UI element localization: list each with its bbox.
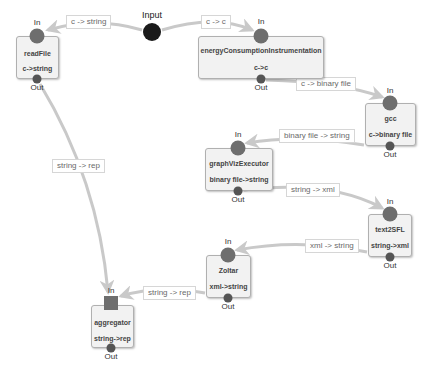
edge-label: xml -> string [305,239,359,253]
in-port-icon[interactable] [30,29,45,44]
in-port-label: In [34,18,41,27]
input-node-icon[interactable] [143,23,161,41]
edge-label: c -> binary file [296,77,356,91]
node-type: xml->string [207,283,250,290]
in-port-icon[interactable] [383,207,398,222]
input-label: Input [142,10,162,20]
in-port-icon[interactable] [254,29,269,44]
node-name: aggregator [92,319,133,326]
in-port-label: In [387,86,394,95]
node-type: string->xml [369,242,411,249]
node-type: string->rep [92,335,133,342]
node-aggregator[interactable]: aggregator string->rep [91,305,134,348]
node-name: Zoltar [207,267,250,274]
in-port-icon[interactable] [383,96,398,111]
in-port-label: In [387,197,394,206]
in-port-icon[interactable] [231,141,246,156]
node-type: c->c [199,64,323,71]
node-type: c->string [17,65,58,72]
node-name: readFile [17,50,58,57]
edge-label: string -> rep [52,159,105,173]
out-port-label: Out [31,83,44,92]
edge-label: c -> string [66,15,111,29]
edge-label: string -> xml [286,183,340,197]
out-port-label: Out [232,195,245,204]
out-port-label: Out [105,352,118,361]
in-port-label: In [235,130,242,139]
out-port-label: Out [222,302,235,311]
edge-label: string -> rep [143,286,196,300]
node-type: c->binary file [366,131,415,138]
node-type: binary file->string [206,176,272,183]
node-name: energyConsumptionInstrumentation [199,47,323,54]
out-port-label: Out [384,261,397,270]
edge-readfile-aggregator[interactable] [40,84,108,292]
node-name: gcc [366,115,415,122]
in-port-square-icon[interactable] [104,296,118,310]
out-port-label: Out [384,150,397,159]
node-name: graphVizExecutor [206,160,272,167]
in-port-label: In [258,17,265,26]
edge-label: c -> c [201,15,231,29]
node-name: text2SFL [369,226,411,233]
in-port-label: In [108,286,115,295]
edge-label: binary file -> string [279,129,355,143]
in-port-icon[interactable] [221,248,236,263]
in-port-label: In [225,237,232,246]
out-port-label: Out [255,83,268,92]
